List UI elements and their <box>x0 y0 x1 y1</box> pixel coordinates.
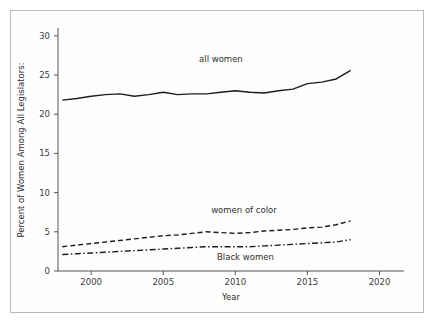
x-tick-label: 2020 <box>369 277 391 287</box>
x-tick-label: 2010 <box>225 277 247 287</box>
y-tick-label: 0 <box>45 266 50 276</box>
line-chart: 051015202530 20002005201020152020 all wo… <box>0 0 438 330</box>
series-label-black-women: Black women <box>217 252 274 262</box>
y-axis-title: Percent of Women Among All Legislators: <box>16 62 26 237</box>
x-axis-ticks: 20002005201020152020 <box>80 271 390 287</box>
y-tick-label: 30 <box>39 31 50 41</box>
x-tick-label: 2005 <box>152 277 174 287</box>
y-tick-label: 25 <box>39 70 50 80</box>
series-lines <box>62 70 350 254</box>
y-tick-label: 20 <box>39 109 50 119</box>
y-tick-label: 15 <box>39 148 50 158</box>
figure-container: 051015202530 20002005201020152020 all wo… <box>0 0 438 330</box>
series-line-women-of-color <box>62 221 350 247</box>
series-line-all-women <box>62 70 350 100</box>
x-axis-title: Year <box>221 292 241 302</box>
series-label-women-of-color: women of color <box>211 205 277 215</box>
y-tick-label: 5 <box>45 227 50 237</box>
x-tick-label: 2000 <box>80 277 102 287</box>
x-tick-label: 2015 <box>297 277 319 287</box>
series-label-all-women: all women <box>199 54 243 64</box>
y-axis-ticks: 051015202530 <box>39 31 58 276</box>
y-tick-label: 10 <box>39 188 50 198</box>
